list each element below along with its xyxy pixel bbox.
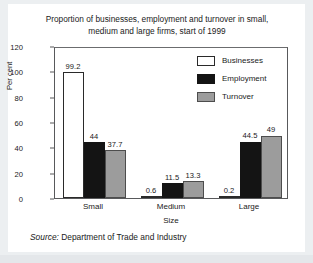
chart-title-line-2: medium and large firms, start of 1999 [88, 26, 225, 36]
y-tick-label: 120 [0, 43, 23, 52]
legend-swatch-turnover [197, 92, 215, 102]
legend-item: Employment [197, 71, 287, 86]
chart-title-line-1: Proportion of businesses, employment and… [46, 14, 269, 24]
bar-businesses [141, 196, 162, 198]
chart-title: Proportion of businesses, employment and… [28, 14, 286, 37]
source-prefix: Source: [30, 232, 59, 242]
source-caption: Source: Department of Trade and Industry [30, 232, 186, 242]
x-axis-title: Size [54, 216, 288, 225]
source-text: Department of Trade and Industry [61, 232, 186, 242]
y-tick-label: 20 [0, 169, 23, 178]
bar-value-label: 13.3 [177, 171, 210, 180]
bar-value-label: 49 [255, 125, 288, 134]
bar-value-label: 99.2 [57, 62, 90, 71]
bar-employment [240, 142, 261, 198]
y-tick-label: 0 [0, 195, 23, 204]
x-tick-label: Small [54, 202, 132, 211]
bar-employment [84, 142, 105, 198]
y-tick-label: 100 [0, 68, 23, 77]
legend-label: Businesses [222, 56, 263, 65]
chart-card: Proportion of businesses, employment and… [8, 4, 305, 252]
page-bottom-band [0, 255, 313, 263]
legend-item: Businesses [197, 53, 287, 68]
y-tick-label: 80 [0, 93, 23, 102]
legend-swatch-businesses [197, 56, 215, 66]
bar-turnover [183, 181, 204, 198]
legend-item: Turnover [197, 89, 287, 104]
y-tick-label: 60 [0, 119, 23, 128]
bar-businesses [219, 196, 240, 198]
chart-legend: BusinessesEmploymentTurnover [197, 53, 287, 107]
x-tick-label: Large [210, 202, 288, 211]
x-tick-label: Medium [132, 202, 210, 211]
y-tick-label: 40 [0, 144, 23, 153]
bar-chart-figure: Proportion of businesses, employment and… [8, 4, 305, 252]
legend-label: Turnover [222, 92, 254, 101]
bar-turnover [105, 150, 126, 198]
legend-label: Employment [222, 74, 266, 83]
bar-group: 0.611.513.3 [141, 48, 204, 198]
bar-group: 99.24437.7 [63, 48, 126, 198]
legend-swatch-employment [197, 74, 215, 84]
bar-employment [162, 183, 183, 198]
bar-value-label: 37.7 [99, 140, 132, 149]
bar-turnover [261, 136, 282, 198]
